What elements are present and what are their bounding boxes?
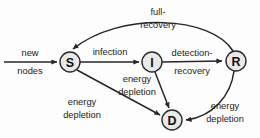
- node-s-label: S: [66, 56, 74, 70]
- edge-label-new: new: [21, 48, 38, 58]
- node-r[interactable]: R: [226, 51, 246, 71]
- edge-label-nodes: nodes: [17, 66, 43, 76]
- edge-label-energy-r: energy: [211, 101, 240, 111]
- edge-label-depletion-s: depletion: [63, 110, 101, 120]
- edge-label-infection: infection: [93, 47, 128, 57]
- edge-label-recovery: recovery: [174, 66, 210, 76]
- node-d-label: D: [167, 114, 176, 128]
- state-transition-diagram: S I R D new nodes infection detection- r…: [0, 0, 260, 138]
- edge-r-to-d: [186, 71, 234, 120]
- edge-label-depletion-r: depletion: [206, 114, 244, 124]
- edge-i-to-d: [155, 72, 169, 108]
- edge-label-depletion-i: depletion: [118, 87, 156, 97]
- edge-i-to-r: [162, 61, 222, 62]
- edge-label-detection: detection-: [172, 48, 213, 58]
- node-d[interactable]: D: [162, 110, 182, 130]
- node-i-label: I: [150, 56, 153, 70]
- edge-label-full-recovery: recovery: [140, 20, 176, 30]
- edge-label-full: full-: [151, 7, 166, 17]
- node-r-label: R: [231, 55, 240, 69]
- diagram-canvas: S I R D new nodes infection detection- r…: [0, 0, 260, 138]
- edge-label-energy-i: energy: [123, 74, 152, 84]
- node-i[interactable]: I: [142, 52, 162, 72]
- node-s[interactable]: S: [60, 52, 80, 72]
- edge-label-energy-s: energy: [68, 97, 97, 107]
